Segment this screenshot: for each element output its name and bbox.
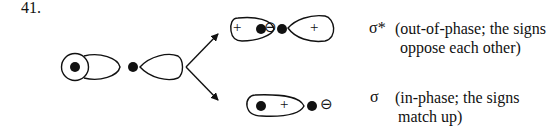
sigma-desc-2: match up) [398, 108, 462, 126]
sigma-star-symbol: σ* [369, 19, 386, 37]
sigma-star-left-sign: + [233, 19, 241, 36]
sigma-star-small-sign: ⊖ [264, 18, 277, 36]
sigma-star-desc-1: (out-of-phase; the signs [395, 20, 546, 38]
sigma-nucleus-1 [256, 101, 266, 111]
sigma-symbol: σ [370, 88, 379, 106]
sigma-small-sign: ⊖ [320, 95, 333, 113]
sigma-big-lobe [247, 95, 304, 116]
left-p-lobe [84, 55, 120, 80]
arrow-down [186, 67, 218, 100]
right-p-lobe [140, 54, 183, 79]
sigma-star-desc-2: oppose each other) [400, 39, 521, 57]
sigma-lobe-sign: + [280, 96, 288, 113]
center-nucleus [128, 62, 138, 72]
sigma-star-nucleus-2 [277, 24, 287, 34]
arrow-up [186, 34, 218, 67]
left-nucleus [70, 62, 80, 72]
sigma-nucleus-2 [307, 101, 317, 111]
sigma-star-right-sign: + [310, 19, 318, 36]
sigma-desc-1: (in-phase; the signs [395, 89, 519, 107]
